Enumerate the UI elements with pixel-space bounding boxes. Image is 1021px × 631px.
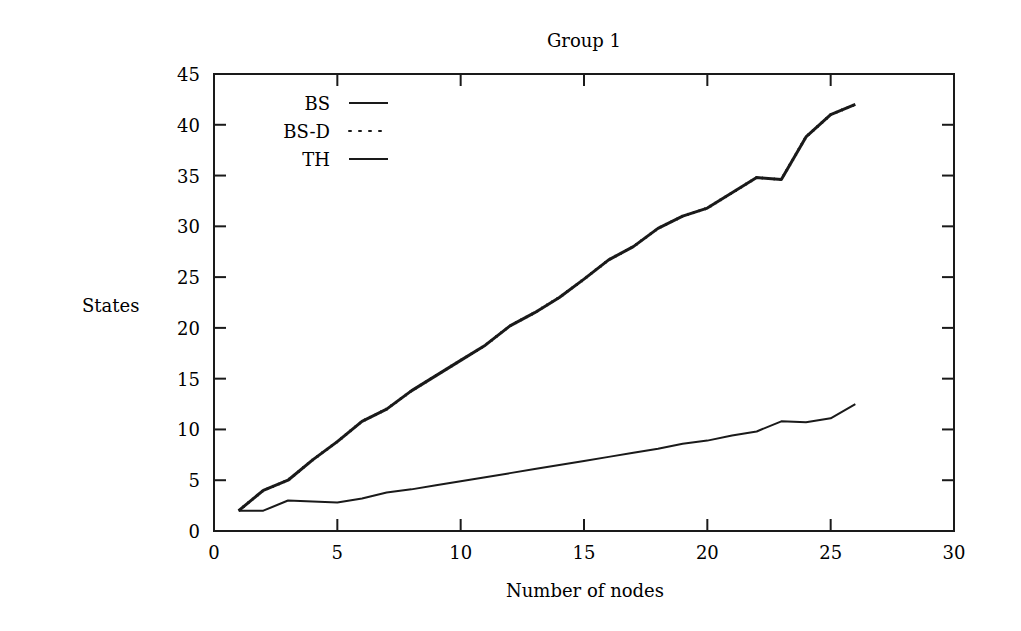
legend: BSBS-DTH: [283, 93, 388, 170]
x-tick-label: 10: [449, 542, 472, 563]
x-tick-label: 25: [819, 542, 842, 563]
x-axis: 051015202530: [208, 74, 965, 563]
y-tick-label: 40: [177, 115, 200, 136]
series-line-th: [239, 404, 856, 511]
y-tick-label: 35: [177, 166, 200, 187]
x-tick-label: 30: [943, 542, 966, 563]
legend-label: BS: [304, 93, 330, 114]
legend-label: BS-D: [283, 121, 330, 142]
plot-frame: [214, 74, 954, 531]
y-tick-label: 45: [177, 64, 200, 85]
x-tick-label: 20: [696, 542, 719, 563]
y-tick-label: 10: [177, 419, 200, 440]
series-lines: [239, 104, 856, 510]
y-tick-label: 15: [177, 369, 200, 390]
x-tick-label: 0: [208, 542, 219, 563]
x-axis-label: Number of nodes: [506, 580, 664, 601]
chart-title: Group 1: [547, 30, 621, 51]
x-tick-label: 15: [573, 542, 596, 563]
x-tick-label: 5: [332, 542, 343, 563]
y-tick-label: 20: [177, 318, 200, 339]
series-line-bs: [239, 104, 856, 510]
series-line-bs-d: [239, 104, 856, 510]
y-tick-label: 30: [177, 216, 200, 237]
y-tick-label: 5: [189, 470, 200, 491]
legend-label: TH: [302, 149, 330, 170]
y-tick-label: 25: [177, 267, 200, 288]
y-tick-label: 0: [189, 521, 200, 542]
y-axis-label: States: [82, 295, 139, 316]
line-chart: Group 1 051015202530354045 051015202530 …: [0, 0, 1021, 631]
